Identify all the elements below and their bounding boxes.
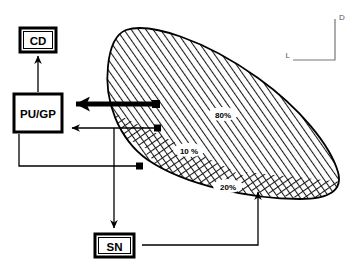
box-sn[interactable]: SN: [95, 234, 134, 257]
zone20-left-arrow: [19, 134, 143, 170]
zone-20-label-text: 20%: [220, 183, 236, 192]
zone-10-label: 10 %: [173, 143, 205, 157]
axis-label-l: L: [286, 51, 291, 60]
diagram-svg: 80% 10 % 20%: [0, 0, 352, 269]
axis-indicator: D L: [286, 13, 345, 60]
box-pu-gp[interactable]: PU/GP: [14, 94, 62, 132]
zone-80-label-text: 80%: [215, 111, 231, 120]
sn-zone20-arrow: [142, 192, 258, 245]
box-cd-label: CD: [30, 35, 47, 47]
zone-80-label: 80%: [208, 107, 238, 121]
box-pu-gp-label: PU/GP: [20, 108, 56, 120]
box-sn-label: SN: [107, 241, 123, 253]
axis-corner-line: [293, 19, 335, 60]
zone-20-label: 20%: [213, 179, 243, 193]
zone-10-label-text: 10 %: [180, 147, 198, 156]
box-cd[interactable]: CD: [20, 28, 56, 52]
axis-label-d: D: [339, 13, 345, 22]
diagram-canvas: 80% 10 % 20%: [0, 0, 352, 269]
